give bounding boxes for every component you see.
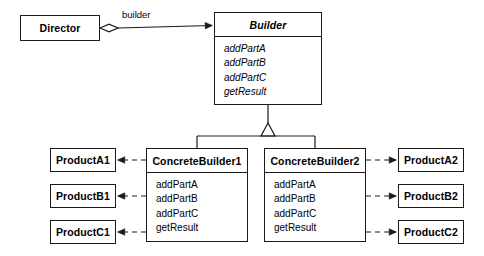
class-name-product-a2: ProductA2 [399,149,463,171]
operation-item: addPartB [156,192,247,206]
operations-builder: addPartA addPartB addPartC getResult [215,37,321,104]
association-line [118,26,212,29]
operation-item: addPartC [274,207,365,221]
operation-item: getResult [274,221,365,235]
operations-concrete-builder-2: addPartA addPartB addPartC getResult [265,173,365,240]
operation-item: addPartA [274,178,365,192]
operation-item: getResult [156,221,247,235]
operation-item: addPartC [156,207,247,221]
association-director-builder [100,24,212,32]
association-role-label: builder [122,9,151,20]
class-name-product-c2: ProductC2 [399,221,463,243]
operation-item: addPartA [224,42,321,56]
class-box-builder[interactable]: Builder addPartA addPartB addPartC getRe… [214,12,322,105]
class-name-product-c1: ProductC1 [51,221,115,243]
class-name-concrete-builder-1: ConcreteBuilder1 [147,149,247,173]
class-name-product-b1: ProductB1 [51,185,115,207]
class-box-product-c1[interactable]: ProductC1 [50,220,116,244]
class-box-director[interactable]: Director [20,15,100,41]
class-name-builder: Builder [215,13,321,37]
class-name-director: Director [21,16,99,40]
class-box-product-b1[interactable]: ProductB1 [50,184,116,208]
class-name-product-a1: ProductA1 [51,149,115,171]
class-name-product-b2: ProductB2 [399,185,463,207]
aggregation-diamond [100,24,118,32]
operation-item: getResult [224,85,321,99]
class-box-concrete-builder-2[interactable]: ConcreteBuilder2 addPartA addPartB addPa… [264,148,366,242]
class-box-product-b2[interactable]: ProductB2 [398,184,464,208]
inheritance-triangle-icon [261,123,275,136]
class-box-product-a1[interactable]: ProductA1 [50,148,116,172]
class-name-concrete-builder-2: ConcreteBuilder2 [265,149,365,173]
generalization-group [197,105,315,148]
class-box-product-c2[interactable]: ProductC2 [398,220,464,244]
operation-item: addPartC [224,71,321,85]
class-box-product-a2[interactable]: ProductA2 [398,148,464,172]
operation-item: addPartB [274,192,365,206]
dependency-group-left [118,160,146,232]
operations-concrete-builder-1: addPartA addPartB addPartC getResult [147,173,247,240]
operation-item: addPartA [156,178,247,192]
uml-class-diagram-canvas: builder Director Builder addPartA addPar… [0,0,484,256]
class-box-concrete-builder-1[interactable]: ConcreteBuilder1 addPartA addPartB addPa… [146,148,248,242]
dependency-group-right [366,160,396,232]
operation-item: addPartB [224,56,321,70]
